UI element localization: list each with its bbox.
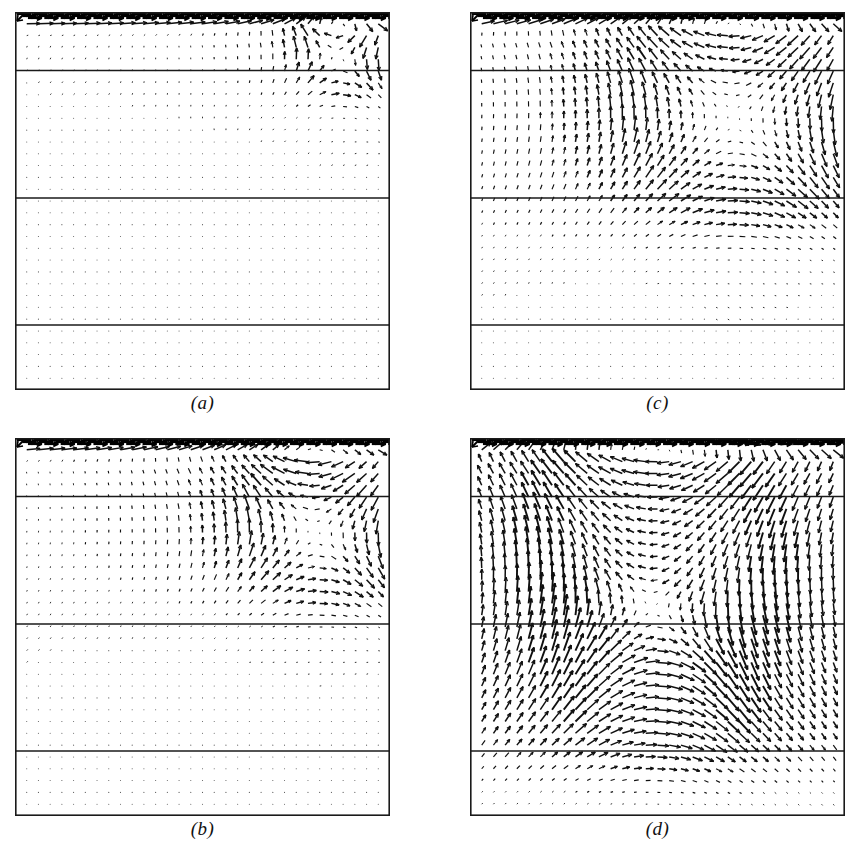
velocity-arrows — [15, 438, 390, 816]
vector-field-panel-b — [15, 438, 390, 816]
velocity-arrows — [470, 12, 845, 390]
panel-caption-b: (b) — [15, 818, 390, 840]
quiver-plot-a — [15, 12, 390, 390]
vector-field-panel-a — [15, 12, 390, 390]
panel-caption-c: (c) — [470, 392, 845, 414]
vector-field-panel-d — [470, 438, 845, 816]
panel-caption-d: (d) — [470, 818, 845, 840]
figure-vector-field-panels: (a)(b)(c)(d) — [0, 0, 865, 856]
vector-field-panel-c — [470, 12, 845, 390]
velocity-arrows — [15, 12, 390, 390]
quiver-plot-b — [15, 438, 390, 816]
quiver-plot-c — [470, 12, 845, 390]
quiver-plot-d — [470, 438, 845, 816]
panel-caption-a: (a) — [15, 392, 390, 414]
velocity-arrows — [470, 438, 845, 816]
